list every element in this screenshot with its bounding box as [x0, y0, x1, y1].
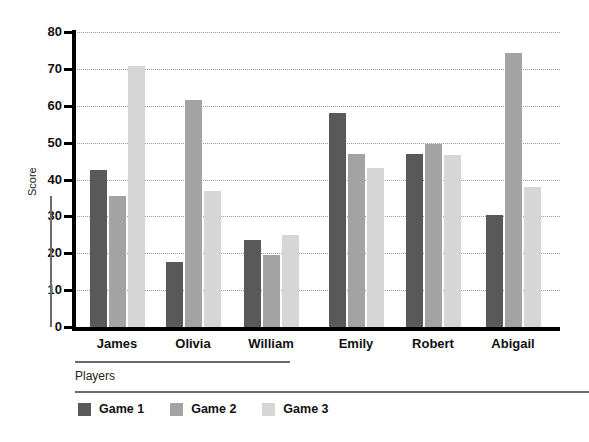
- players-label-rule-bottom: [75, 391, 589, 393]
- y-axis-tick-label: 0: [0, 319, 62, 334]
- bar: [329, 113, 346, 327]
- bar: [524, 187, 541, 327]
- y-axis-tick: [64, 31, 73, 34]
- bar: [204, 191, 221, 327]
- y-axis-tick-label: 80: [0, 24, 62, 39]
- y-axis-tick: [64, 215, 73, 218]
- legend-item[interactable]: Game 3: [262, 402, 328, 416]
- legend-item[interactable]: Game 2: [170, 402, 236, 416]
- y-axis-tick-label: 70: [0, 61, 62, 76]
- y-axis-tick: [64, 252, 73, 255]
- x-axis-title: Players: [75, 369, 115, 383]
- score-label-rule: [50, 196, 52, 327]
- legend-item[interactable]: Game 1: [78, 402, 144, 416]
- y-axis-tick: [64, 289, 73, 292]
- bar: [263, 255, 280, 327]
- bar: [425, 144, 442, 327]
- bar: [444, 155, 461, 327]
- bar: [166, 262, 183, 327]
- legend-swatch-icon: [170, 403, 183, 416]
- y-axis-title: Score: [26, 167, 38, 196]
- bars-layer: [75, 32, 560, 327]
- chart-legend: Game 1Game 2Game 3: [78, 402, 355, 416]
- bar: [348, 154, 365, 327]
- bar: [406, 154, 423, 327]
- bar: [185, 100, 202, 327]
- legend-label: Game 1: [99, 402, 144, 416]
- y-axis-tick-label: 60: [0, 98, 62, 113]
- bar-chart: 01020304050607080 JamesOliviaWilliamEmil…: [0, 0, 589, 442]
- y-axis-tick-label: 30: [0, 208, 62, 223]
- y-axis-tick: [64, 68, 73, 71]
- y-axis-tick-label: 20: [0, 245, 62, 260]
- x-axis-category-label: Abigail: [463, 336, 563, 351]
- bar: [109, 196, 126, 327]
- bar: [367, 168, 384, 327]
- x-axis-line: [72, 327, 560, 331]
- bar: [90, 170, 107, 327]
- y-axis-tick: [64, 326, 73, 329]
- players-label-rule-top: [75, 361, 290, 363]
- y-axis-tick: [64, 105, 73, 108]
- bar: [244, 240, 261, 327]
- legend-swatch-icon: [262, 403, 275, 416]
- y-axis-tick: [64, 179, 73, 182]
- bar: [128, 66, 145, 327]
- y-axis-tick-label: 10: [0, 282, 62, 297]
- legend-label: Game 3: [283, 402, 328, 416]
- y-axis-tick-label: 50: [0, 135, 62, 150]
- bar: [486, 215, 503, 327]
- y-axis-tick: [64, 142, 73, 145]
- legend-swatch-icon: [78, 403, 91, 416]
- legend-label: Game 2: [191, 402, 236, 416]
- bar: [505, 53, 522, 327]
- bar: [282, 235, 299, 327]
